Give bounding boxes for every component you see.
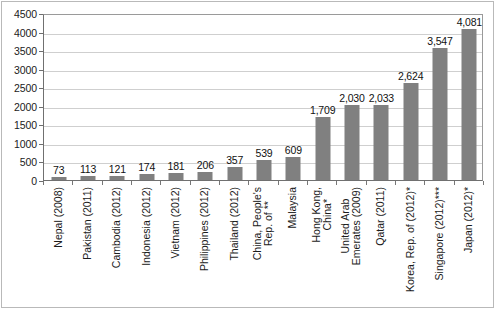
x-axis-tick-mark <box>131 181 132 185</box>
x-axis-label-slot: Indonesia (2012) <box>131 187 160 305</box>
bar-group: 539 <box>249 15 278 180</box>
x-axis-category-label-line: Hong Kong, <box>310 187 322 242</box>
bar-value-label: 121 <box>109 163 126 175</box>
x-axis-category-label-line: Thailand (2012) <box>227 187 239 261</box>
bar-group: 609 <box>279 15 308 180</box>
x-axis-category-label-line: Emerates (2009) <box>351 187 362 265</box>
bar-value-label: 357 <box>226 154 243 166</box>
x-axis-category-label: Cambodia (2012) <box>111 187 122 268</box>
x-axis-label-slot: Korea, Rep. of (2012)* <box>395 187 424 305</box>
y-axis-tick-label: 1500 <box>14 119 37 131</box>
bar-value-label: 4,081 <box>457 16 482 28</box>
y-axis-tick-label: 1000 <box>14 138 37 150</box>
bar-group: 206 <box>191 15 220 180</box>
bar <box>139 174 154 180</box>
bar <box>286 157 301 180</box>
bar-value-label: 2,624 <box>398 70 423 82</box>
bar-group: 4,081 <box>455 15 484 180</box>
bar-series: 731131211741812063575396091,7092,0302,03… <box>44 15 482 180</box>
x-axis-category-label-line: Korea, Rep. of (2012)* <box>403 187 415 292</box>
bar-value-label: 1,709 <box>310 104 335 116</box>
bar-group: 2,624 <box>396 15 425 180</box>
x-axis-tick-mark <box>336 181 337 185</box>
x-axis-category-label-line: China* <box>322 187 333 242</box>
plot-area: 731131211741812063575396091,7092,0302,03… <box>43 14 483 181</box>
x-axis-category-label: Japan (2012)* <box>463 187 474 253</box>
bar-value-label: 181 <box>168 160 185 172</box>
bar-value-label: 206 <box>197 159 214 171</box>
x-axis-tick-mark <box>219 181 220 185</box>
x-axis-label-slot: Cambodia (2012) <box>102 187 131 305</box>
x-axis-tick-mark <box>43 181 44 185</box>
x-axis-label-slot: Nepal (2008) <box>43 187 72 305</box>
y-axis-tick-label: 2500 <box>14 82 37 94</box>
bar <box>110 176 125 180</box>
x-axis-category-label-line: Nepal (2008) <box>51 187 63 248</box>
bar-group: 2,030 <box>337 15 366 180</box>
x-axis-category-label: Korea, Rep. of (2012)* <box>404 187 415 292</box>
x-axis-label-slot: Pakistan (2011) <box>72 187 101 305</box>
x-axis-tick-mark <box>278 181 279 185</box>
x-axis-tick-mark <box>102 181 103 185</box>
bar-group: 174 <box>132 15 161 180</box>
x-axis-category-label: United ArabEmerates (2009) <box>340 187 362 265</box>
x-axis-category-label: Thailand (2012) <box>228 187 239 261</box>
y-axis-tick-label: 2000 <box>14 101 37 113</box>
bar-group: 113 <box>73 15 102 180</box>
bar-group: 2,033 <box>367 15 396 180</box>
x-axis-ticks <box>43 181 483 186</box>
bar <box>344 105 359 180</box>
x-axis-category-label: Singapore (2012)*** <box>433 187 444 280</box>
x-axis-category-label: Hong Kong,China* <box>311 187 333 242</box>
x-axis-tick-mark <box>190 181 191 185</box>
bar <box>374 105 389 180</box>
bar-value-label: 2,030 <box>339 92 364 104</box>
bar-group: 1,709 <box>308 15 337 180</box>
y-axis: 450040003500300025002000150010005000 <box>0 0 40 195</box>
x-axis-label-slot: Thailand (2012) <box>219 187 248 305</box>
y-axis-tick-label: 3000 <box>14 64 37 76</box>
bar-value-label: 2,033 <box>369 92 394 104</box>
x-axis-category-label-line: Vietnam (2012) <box>168 187 180 259</box>
bar <box>51 177 66 180</box>
x-axis-tick-mark <box>483 181 484 185</box>
bar-value-label: 113 <box>80 163 96 175</box>
x-axis-label-slot: Philippines (2012) <box>190 187 219 305</box>
bar <box>256 160 271 180</box>
bar-value-label: 73 <box>53 164 64 176</box>
x-axis-category-label-line: Singapore (2012)*** <box>432 187 444 280</box>
bar-group: 73 <box>44 15 73 180</box>
y-axis-tick-label: 4500 <box>14 8 37 20</box>
x-axis-label-slot: Qatar (2011) <box>366 187 395 305</box>
x-axis-label-slot: Hong Kong,China* <box>307 187 336 305</box>
x-axis-tick-mark <box>395 181 396 185</box>
x-axis-tick-mark <box>248 181 249 185</box>
x-axis-category-label-line: Cambodia (2012) <box>110 187 122 268</box>
bar <box>432 48 447 180</box>
bar <box>80 176 95 180</box>
y-axis-tick-label: 4000 <box>14 27 37 39</box>
x-axis-tick-mark <box>307 181 308 185</box>
x-axis-category-label-line: Indonesia (2012) <box>139 187 151 266</box>
bar-group: 181 <box>161 15 190 180</box>
bar <box>462 29 477 180</box>
bar-group: 357 <box>220 15 249 180</box>
x-axis-category-label-line: Malaysia <box>286 187 298 228</box>
x-axis-tick-mark <box>160 181 161 185</box>
x-axis-category-label-line: Japan (2012)* <box>462 187 474 253</box>
y-axis-tick-label: 500 <box>20 156 37 168</box>
x-axis-category-label: Qatar (2011) <box>375 187 386 246</box>
x-axis-category-labels: Nepal (2008)Pakistan (2011)Cambodia (201… <box>43 187 483 305</box>
x-axis-label-slot: Singapore (2012)*** <box>424 187 453 305</box>
bar-group: 121 <box>103 15 132 180</box>
bar-value-label: 539 <box>256 147 273 159</box>
bar <box>198 172 213 180</box>
bar <box>315 117 330 180</box>
y-axis-tick-label: 3500 <box>14 45 37 57</box>
x-axis-category-label: China, People'sRep. of ** <box>252 187 274 260</box>
x-axis-category-label: Pakistan (2011) <box>81 187 92 260</box>
bar-chart-figure: 450040003500300025002000150010005000 731… <box>0 0 495 309</box>
x-axis-label-slot: Malaysia <box>278 187 307 305</box>
bar-value-label: 3,547 <box>427 35 452 47</box>
x-axis-category-label: Malaysia <box>287 187 298 228</box>
